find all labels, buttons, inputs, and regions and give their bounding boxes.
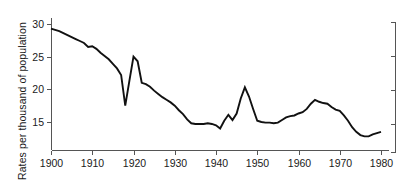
line-chart: Rates per thousand of population 1520253… <box>0 0 418 182</box>
data-series <box>51 29 381 137</box>
x-tick-label-1940: 1940 <box>197 158 237 169</box>
x-tick-label-1970: 1970 <box>321 158 361 169</box>
y-tick-label-15: 15 <box>17 117 44 128</box>
x-tick-label-1930: 1930 <box>156 158 196 169</box>
series-line <box>51 29 381 137</box>
axes <box>47 18 396 155</box>
y-tick-label-30: 30 <box>17 19 44 30</box>
x-tick-label-1980: 1980 <box>362 158 402 169</box>
x-tick-label-1920: 1920 <box>115 158 155 169</box>
y-tick-label-20: 20 <box>17 84 44 95</box>
y-tick-label-25: 25 <box>17 52 44 63</box>
x-tick-label-1950: 1950 <box>238 158 278 169</box>
x-tick-label-1960: 1960 <box>280 158 320 169</box>
x-tick-label-1900: 1900 <box>32 158 72 169</box>
chart-plot-area <box>0 0 418 182</box>
x-tick-label-1910: 1910 <box>73 158 113 169</box>
